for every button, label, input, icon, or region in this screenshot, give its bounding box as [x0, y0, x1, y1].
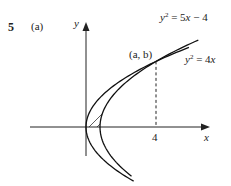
parabola-plot — [0, 0, 231, 186]
x-axis-arrow-icon — [201, 124, 210, 131]
y-axis-arrow-icon — [83, 22, 90, 31]
hatch-line — [86, 55, 161, 130]
hatch-line — [102, 55, 177, 130]
hatch-line — [126, 55, 201, 130]
curve-y2-eq-5x-minus-4 — [100, 40, 198, 176]
shaded-region-hatching — [86, 55, 201, 130]
